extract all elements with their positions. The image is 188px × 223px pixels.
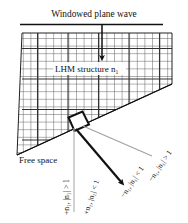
ray-label-negative-low: −n₁, |n₁| < 1 bbox=[118, 164, 146, 199]
lhm-structure-label-text: LHM structure n bbox=[55, 64, 116, 74]
ray-label-positive-low: +n₁, |n₁| < 1 bbox=[81, 179, 101, 216]
free-space-label: Free space bbox=[19, 155, 57, 165]
refracted-ray-arrow bbox=[76, 129, 122, 183]
lhm-structure-label: LHM structure n1 bbox=[55, 64, 119, 75]
figure-title: Windowed plane wave bbox=[51, 9, 137, 19]
ray-label-positive-high: +n₁, |n₁| > 1 bbox=[62, 179, 71, 215]
guide-ray-negative-high bbox=[83, 126, 152, 156]
figure-canvas: Windowed plane wave LHM structure n1 Fre… bbox=[0, 0, 188, 223]
lhm-structure-label-group: LHM structure n1 bbox=[53, 62, 126, 75]
lhm-structure-label-subscript: 1 bbox=[116, 69, 119, 75]
lhm-refraction-figure: Windowed plane wave LHM structure n1 Fre… bbox=[0, 0, 188, 223]
ray-label-negative-high: −n₁, |n₁| > 1 bbox=[146, 148, 174, 183]
